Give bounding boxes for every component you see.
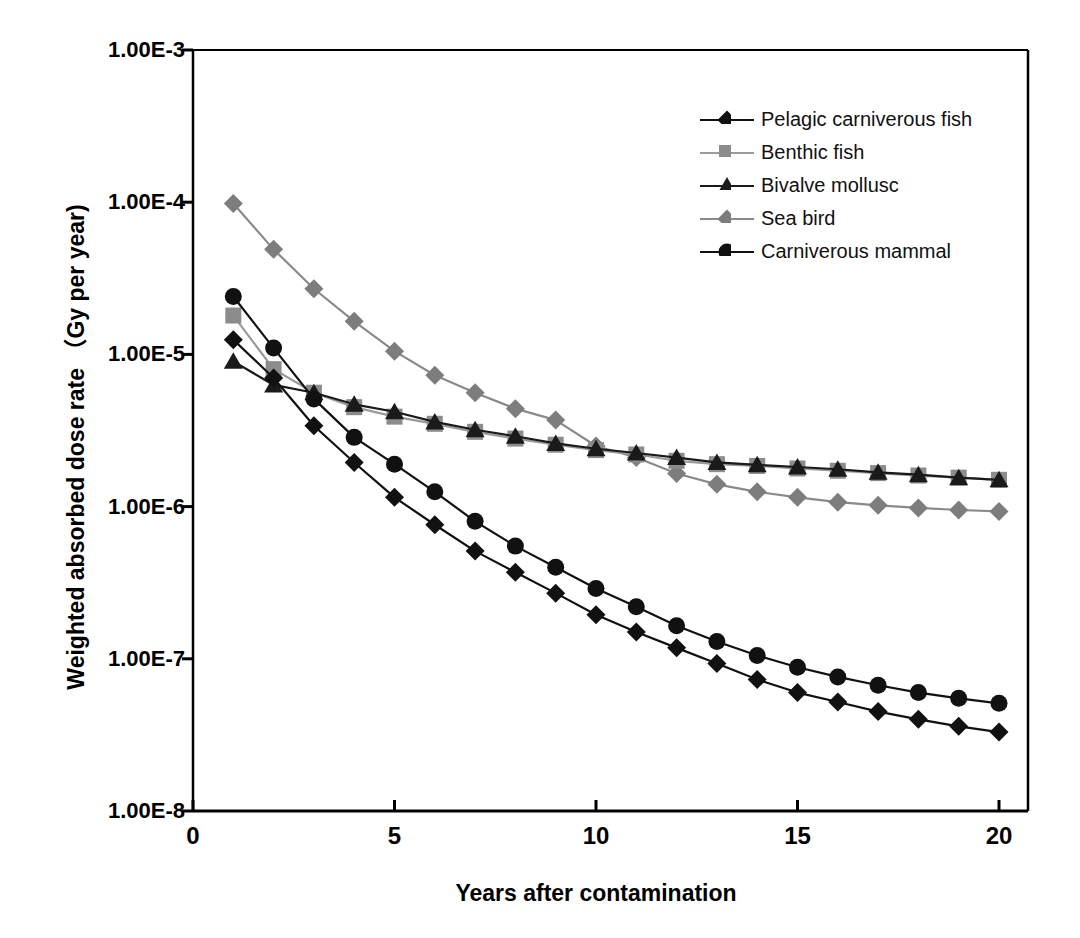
marker-diamond (718, 110, 732, 124)
marker-diamond (788, 683, 807, 702)
marker-diamond (990, 723, 1009, 742)
marker-diamond (949, 717, 968, 736)
series-benthic-fish (225, 308, 1007, 488)
legend-marker-circle-icon (715, 240, 731, 256)
marker-circle (346, 429, 363, 446)
marker-circle (628, 598, 645, 615)
marker-diamond (506, 563, 525, 582)
marker-circle (991, 695, 1008, 712)
marker-circle (588, 580, 605, 597)
marker-circle (719, 243, 732, 256)
y-tick-label: 1.00E-7 (55, 646, 185, 672)
marker-diamond (748, 482, 767, 501)
marker-diamond (909, 710, 928, 729)
x-tick-label: 20 (969, 822, 1029, 850)
series-line (233, 316, 999, 480)
chart-figure: Weighted absorbed dose rate （Gy per year… (0, 0, 1080, 938)
chart-legend: Pelagic carniverous fishBenthic fishBiva… (700, 103, 972, 268)
y-tick-label: 1.00E-3 (55, 37, 185, 63)
marker-diamond (667, 638, 686, 657)
legend-marker-diamond-icon (715, 108, 731, 124)
marker-circle (426, 483, 443, 500)
x-tick-label: 10 (566, 822, 626, 850)
marker-circle (386, 456, 403, 473)
series-line (233, 297, 999, 704)
x-tick-label: 0 (163, 822, 223, 850)
marker-diamond (949, 500, 968, 519)
legend-item-carniverous-mammal[interactable]: Carniverous mammal (700, 235, 972, 268)
marker-diamond (466, 383, 485, 402)
y-tick-label: 1.00E-4 (55, 189, 185, 215)
legend-label: Bivalve mollusc (761, 174, 899, 197)
marker-diamond (627, 622, 646, 641)
y-axis-tick-labels: 1.00E-31.00E-41.00E-51.00E-61.00E-71.00E… (40, 0, 185, 938)
legend-swatch (700, 143, 754, 163)
marker-diamond (425, 366, 444, 385)
legend-swatch (700, 110, 754, 130)
legend-swatch (700, 209, 754, 229)
marker-circle (910, 684, 927, 701)
marker-diamond (707, 654, 726, 673)
marker-diamond (466, 542, 485, 561)
legend-item-pelagic-carniverous-fish[interactable]: Pelagic carniverous fish (700, 103, 972, 136)
legend-item-bivalve-mollusc[interactable]: Bivalve mollusc (700, 169, 972, 202)
marker-circle (950, 690, 967, 707)
marker-diamond (587, 605, 606, 624)
legend-item-sea-bird[interactable]: Sea bird (700, 202, 972, 235)
marker-diamond (748, 670, 767, 689)
marker-circle (749, 647, 766, 664)
series-carniverous-mammal (225, 288, 1008, 712)
marker-diamond (707, 475, 726, 494)
x-axis-title: Years after contamination (193, 880, 999, 907)
marker-diamond (869, 496, 888, 515)
marker-square (719, 145, 731, 157)
marker-circle (829, 668, 846, 685)
marker-diamond (425, 515, 444, 534)
marker-diamond (385, 342, 404, 361)
legend-label: Sea bird (761, 207, 836, 230)
marker-diamond (506, 399, 525, 418)
legend-swatch (700, 242, 754, 262)
marker-circle (668, 617, 685, 634)
legend-swatch (700, 176, 754, 196)
marker-diamond (546, 584, 565, 603)
marker-triangle (718, 177, 732, 190)
x-tick-label: 5 (365, 822, 425, 850)
marker-diamond (788, 488, 807, 507)
marker-diamond (718, 209, 732, 223)
marker-circle (708, 633, 725, 650)
legend-marker-triangle-icon (715, 174, 731, 190)
series-line (233, 340, 999, 732)
marker-triangle (224, 352, 243, 369)
series-bivalve-mollusc (224, 352, 1009, 487)
marker-circle (870, 677, 887, 694)
y-tick-label: 1.00E-5 (55, 341, 185, 367)
legend-marker-diamond-icon (715, 207, 731, 223)
marker-diamond (909, 498, 928, 517)
marker-diamond (828, 693, 847, 712)
legend-item-benthic-fish[interactable]: Benthic fish (700, 136, 972, 169)
y-tick-label: 1.00E-8 (55, 798, 185, 824)
marker-square (225, 308, 241, 324)
marker-diamond (990, 502, 1009, 521)
series-pelagic-carniverous-fish (224, 330, 1009, 741)
marker-circle (467, 513, 484, 530)
marker-circle (789, 659, 806, 676)
x-tick-label: 15 (768, 822, 828, 850)
marker-diamond (828, 493, 847, 512)
marker-diamond (546, 411, 565, 430)
legend-label: Carniverous mammal (761, 240, 951, 263)
marker-circle (225, 288, 242, 305)
legend-marker-square-icon (715, 141, 731, 157)
marker-circle (507, 538, 524, 555)
marker-circle (265, 340, 282, 357)
y-tick-label: 1.00E-6 (55, 494, 185, 520)
marker-circle (547, 559, 564, 576)
marker-diamond (869, 702, 888, 721)
legend-label: Benthic fish (761, 141, 864, 164)
marker-circle (305, 390, 322, 407)
legend-label: Pelagic carniverous fish (761, 108, 972, 131)
